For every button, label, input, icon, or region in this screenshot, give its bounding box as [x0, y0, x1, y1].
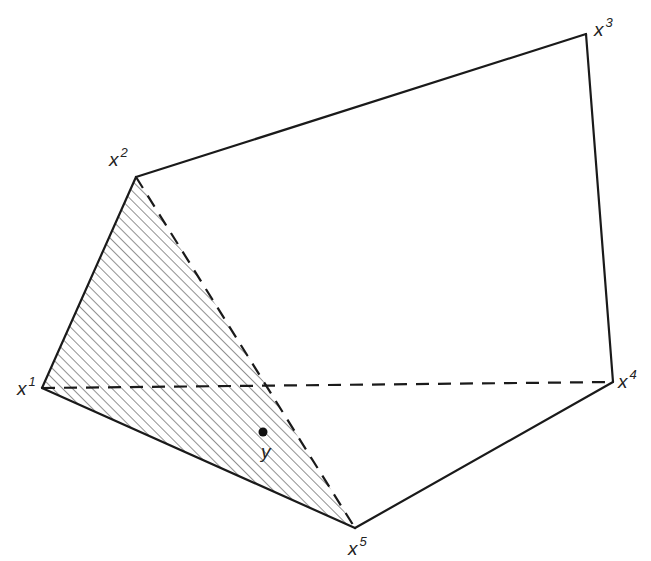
vertex-label-x4: x4 [617, 367, 637, 392]
edge-x3-x4 [586, 34, 613, 382]
point-y-label: y [259, 441, 272, 462]
vertex-label-x1: x1 [16, 374, 36, 399]
edge-x4-x5 [355, 382, 613, 528]
diagram-canvas: y x1x2x3x4x5 [0, 0, 651, 561]
point-y [259, 428, 268, 437]
vertex-label-x2: x2 [108, 145, 129, 170]
vertex-label-x5: x5 [347, 534, 368, 559]
shaded-simplex-region [42, 177, 355, 528]
vertex-label-x3: x3 [593, 15, 614, 40]
edge-x2-x3 [136, 34, 586, 177]
